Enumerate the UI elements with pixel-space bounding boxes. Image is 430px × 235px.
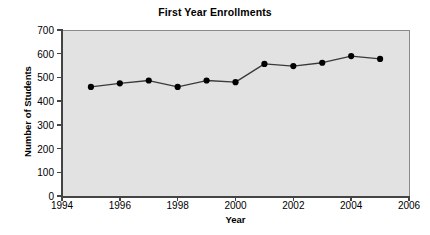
x-tick-label: 2004 (329, 200, 373, 211)
x-tick-label: 1998 (156, 200, 200, 211)
x-tick-label: 1994 (40, 200, 84, 211)
axis-tick-layer: 0100200300400500600700199419961998200020… (0, 0, 430, 235)
y-tick-mark (57, 53, 62, 55)
x-tick-label: 2000 (214, 200, 258, 211)
line-chart-figure: First Year Enrollments 01002003004005006… (0, 0, 430, 235)
y-tick-mark (57, 77, 62, 79)
y-tick-mark (57, 100, 62, 102)
x-tick-label: 2002 (271, 200, 315, 211)
y-axis-title: Number of Students (22, 37, 33, 187)
y-tick-label: 700 (20, 25, 54, 36)
y-tick-mark (57, 124, 62, 126)
x-tick-label: 2006 (387, 200, 430, 211)
y-tick-mark (57, 29, 62, 31)
x-axis-title: Year (62, 214, 409, 225)
y-tick-mark (57, 172, 62, 174)
y-tick-mark (57, 148, 62, 150)
x-tick-label: 1996 (98, 200, 142, 211)
